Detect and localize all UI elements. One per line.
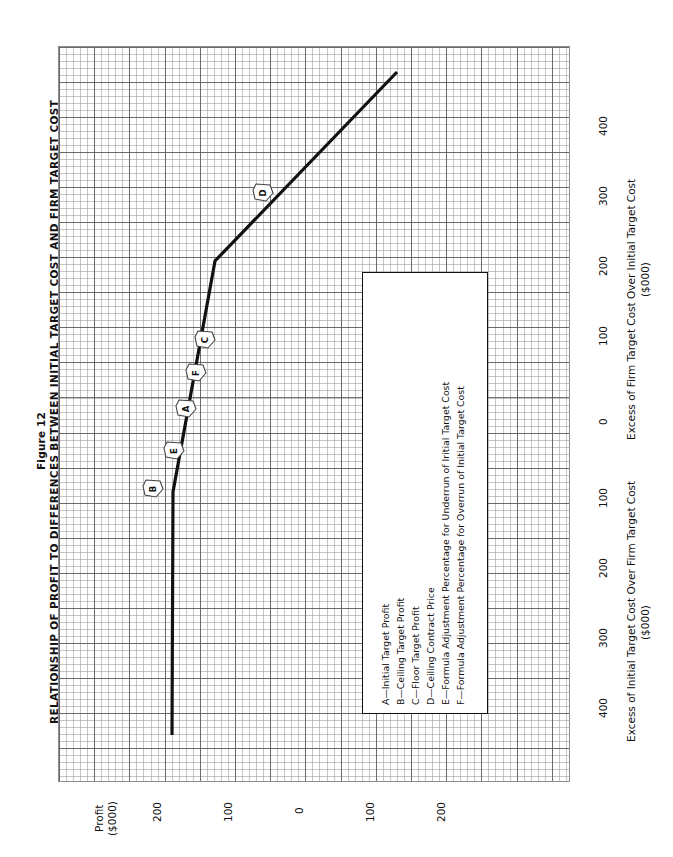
- plot-area: [58, 46, 570, 782]
- x-tick-lower-300: 300: [597, 628, 609, 648]
- figure-number: Figure 12: [36, 412, 47, 470]
- y-tick-0: 0: [293, 807, 305, 814]
- x-tick-upper-200: 200: [597, 256, 609, 276]
- legend-item-a: A—Initial Target Profit: [381, 604, 390, 705]
- x-tick-upper-400: 400: [597, 116, 609, 136]
- x-tick-upper-300: 300: [597, 186, 609, 206]
- x-axis-lower-label-line2: ($000): [639, 605, 651, 640]
- x-tick-upper-100: 100: [597, 326, 609, 346]
- legend-box: A—Initial Target Profit B—Ceiling Target…: [362, 272, 488, 714]
- y-tick-100-upper: 100: [222, 802, 234, 822]
- legend-item-b: B—Ceiling Target Profit: [396, 598, 405, 705]
- x-tick-upper-0: 0: [597, 418, 609, 425]
- y-axis-caption-line2: ($000): [106, 801, 118, 836]
- x-axis-lower-label-line1: Excess of Initial Target Cost Over Firm …: [625, 481, 637, 742]
- x-axis-upper-label-line2: ($000): [639, 262, 651, 297]
- legend-item-c: C—Floor Target Profit: [411, 606, 420, 705]
- x-tick-lower-100: 100: [597, 488, 609, 508]
- y-tick-100-lower: 100: [364, 802, 376, 822]
- legend-item-e: E—Formula Adjustment Percentage for Unde…: [441, 382, 450, 705]
- y-axis-caption-line1: Profit: [93, 805, 105, 832]
- y-tick-200-lower: 200: [435, 802, 447, 822]
- x-tick-lower-400: 400: [597, 698, 609, 718]
- legend-item-f: F—Formula Adjustment Percentage for Over…: [456, 386, 465, 705]
- x-axis-upper-label-line1: Excess of Firm Target Cost Over Initial …: [625, 179, 637, 440]
- y-tick-200-upper: 200: [151, 802, 163, 822]
- x-tick-lower-200: 200: [597, 558, 609, 578]
- legend-item-d: D—Ceiling Contract Price: [426, 587, 435, 705]
